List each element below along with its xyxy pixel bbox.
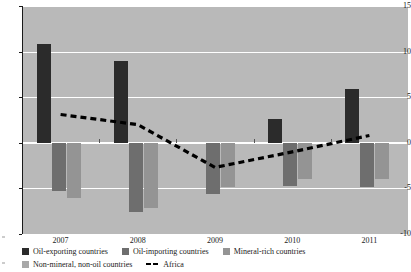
y-tick-label: 15: [392, 2, 411, 10]
legend-row: Oil-exporting countriesOil-importing cou…: [22, 245, 319, 257]
legend-swatch-icon: [22, 248, 29, 255]
legend-label: Non-mineral, non-oil countries: [33, 260, 132, 269]
legend-label: Oil-importing countries: [133, 247, 209, 256]
legend-swatch-icon: [122, 248, 129, 255]
bar: [283, 143, 297, 186]
bar: [67, 143, 81, 199]
legend-item[interactable]: Africa: [146, 258, 183, 270]
scan-artifact: [2, 236, 5, 238]
y-tick-label: -10: [392, 230, 411, 238]
legend-swatch-icon: [22, 261, 29, 268]
y-tick-mark-5: [19, 97, 22, 98]
x-tick-label: 2010: [272, 236, 312, 245]
legend-label: Oil-exporting countries: [33, 247, 108, 256]
gridline-10: [22, 52, 408, 53]
y-axis-line: [22, 6, 23, 234]
x-tick-mark: [176, 139, 177, 143]
legend-dash-icon: [146, 261, 159, 268]
x-tick-label: 2011: [349, 236, 389, 245]
legend-label: Mineral-rich countries: [234, 247, 306, 256]
bar: [114, 61, 128, 143]
bar: [144, 143, 158, 209]
legend-item[interactable]: Mineral-rich countries: [223, 245, 306, 257]
bar: [375, 143, 389, 179]
legend-item[interactable]: Oil-exporting countries: [22, 245, 108, 257]
bar: [345, 89, 359, 143]
y-tick-label: -5: [392, 184, 411, 192]
chart-figure: 151050-5-10 20072008200920102011 Oil-exp…: [0, 0, 411, 272]
y-tick-mark--10: [19, 234, 22, 235]
y-tick-label: 10: [392, 48, 411, 56]
bar: [52, 143, 66, 191]
chart-legend: Oil-exporting countriesOil-importing cou…: [22, 245, 411, 272]
x-tick-label: 2009: [195, 236, 235, 245]
x-tick-mark: [331, 139, 332, 143]
legend-row: Non-mineral, non-oil countriesAfrica: [22, 258, 198, 270]
y-tick-mark-10: [19, 52, 22, 53]
legend-label: Africa: [163, 260, 183, 269]
x-tick-label: 2007: [41, 236, 81, 245]
plot-area: [22, 6, 408, 234]
gridline-15: [22, 6, 408, 7]
bar: [298, 143, 312, 179]
x-tick-mark: [99, 139, 100, 143]
y-tick-mark-15: [19, 6, 22, 7]
bar: [268, 119, 282, 143]
scan-artifact: [2, 262, 5, 264]
y-tick-mark-0: [19, 143, 22, 144]
bar: [221, 143, 235, 188]
legend-item[interactable]: Non-mineral, non-oil countries: [22, 258, 132, 270]
y-tick-mark--5: [19, 188, 22, 189]
y-tick-label: 0: [392, 139, 411, 147]
x-tick-mark: [254, 139, 255, 143]
bar: [37, 44, 51, 142]
x-tick-label: 2008: [118, 236, 158, 245]
bar: [129, 143, 143, 212]
y-tick-label: 5: [392, 93, 411, 101]
legend-swatch-icon: [223, 248, 230, 255]
bar: [206, 143, 220, 194]
bar: [360, 143, 374, 187]
legend-item[interactable]: Oil-importing countries: [122, 245, 209, 257]
